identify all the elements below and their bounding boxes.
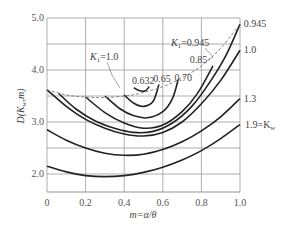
kw-label: 1.9=Kw — [245, 119, 275, 132]
k1-left-label: K1=1.0 — [89, 51, 118, 64]
y-tick-label: 5.0 — [32, 12, 45, 23]
x-tick-label: 0.8 — [195, 197, 208, 208]
x-axis-title: m=α/θ — [130, 209, 157, 220]
chart: 00.20.40.60.81.0 2.03.04.05.0 0.6320.650… — [0, 0, 287, 225]
x-ticks: 00.20.40.60.81.0 — [45, 197, 247, 208]
curve-k-w-0-632 — [134, 87, 149, 92]
x-tick-label: 0.4 — [118, 197, 131, 208]
curve-label: 0.945 — [244, 18, 266, 29]
curve-k-w-0-65 — [124, 85, 159, 107]
k1-boundary-dashed-curve — [47, 24, 240, 97]
y-tick-label: 4.0 — [32, 64, 45, 75]
curve-label: 1.0 — [244, 44, 256, 55]
curves — [47, 24, 240, 176]
curve-label: 0.85 — [190, 54, 208, 65]
y-tick-label: 2.0 — [32, 168, 45, 179]
x-tick-label: 0.6 — [157, 197, 170, 208]
x-tick-label: 0 — [45, 197, 50, 208]
curve-k-w-1-0 — [47, 50, 240, 136]
grid — [47, 18, 240, 192]
x-tick-label: 0.2 — [79, 197, 92, 208]
curve-label: 0.70 — [174, 72, 192, 83]
y-tick-label: 3.0 — [32, 116, 45, 127]
k1-right-label: K1=0.945 — [170, 37, 209, 50]
y-ticks: 2.03.04.05.0 — [32, 12, 45, 179]
annotations: 0.6320.650.700.850.9451.01.3 — [107, 18, 266, 103]
leader-line — [107, 62, 120, 88]
x-tick-label: 1.0 — [234, 197, 247, 208]
curve-label: 0.65 — [153, 73, 171, 84]
curve-label: 1.3 — [244, 93, 256, 104]
y-axis-title: D(Kw,m) — [15, 88, 28, 125]
curve-label: 0.632 — [132, 75, 155, 86]
